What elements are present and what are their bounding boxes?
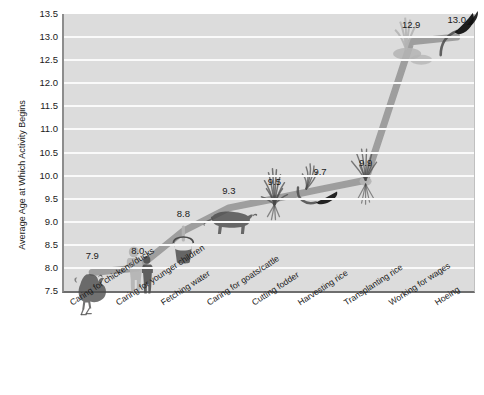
data-point-label: 7.9	[86, 251, 99, 261]
clipped-title-strip	[0, 0, 484, 7]
y-tick-label: 13.0	[12, 32, 58, 42]
y-tick-label: 8.0	[12, 263, 58, 273]
y-axis-tick-labels: 13.513.012.512.011.511.010.510.09.59.08.…	[10, 0, 58, 395]
y-tick-label: 7.5	[12, 286, 58, 296]
data-point-label: 9.5	[268, 177, 281, 187]
y-tick-label: 9.0	[12, 217, 58, 227]
y-tick-label: 10.5	[12, 148, 58, 158]
gridline	[64, 105, 474, 107]
chart-container: Average Age at Which Activity Begins 13.…	[0, 0, 484, 395]
gridline	[64, 221, 474, 223]
y-tick-label: 11.5	[12, 101, 58, 111]
gridline	[64, 267, 474, 269]
gridline	[64, 59, 474, 61]
data-point-label: 13.0	[447, 15, 466, 25]
gridline	[64, 128, 474, 130]
plot-area: 7.98.08.89.39.59.79.912.913.0	[62, 14, 475, 293]
gridline	[64, 244, 474, 246]
y-tick-label: 12.5	[12, 55, 58, 65]
y-tick-label: 13.5	[12, 9, 58, 19]
gridline	[64, 82, 474, 84]
y-tick-label: 12.0	[12, 78, 58, 88]
data-point-label: 9.9	[359, 158, 372, 168]
y-tick-label: 11.0	[12, 124, 58, 134]
gridline	[64, 36, 474, 38]
y-tick-label: 9.5	[12, 194, 58, 204]
rooster-icon	[74, 274, 106, 315]
data-point-label: 12.9	[402, 20, 421, 30]
data-point-label: 8.8	[177, 209, 190, 219]
data-point-label: 8.0	[131, 246, 144, 256]
gridline	[64, 198, 474, 200]
gridline	[64, 175, 474, 177]
gridline	[64, 152, 474, 154]
y-tick-label: 10.0	[12, 171, 58, 181]
data-point-label: 9.3	[222, 186, 235, 196]
y-tick-label: 8.5	[12, 240, 58, 250]
